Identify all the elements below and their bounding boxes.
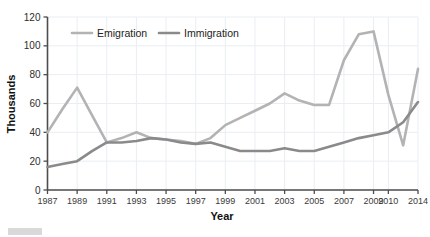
bottom-gray-marker	[8, 228, 42, 235]
x-axis-tick-label: 1991	[97, 196, 117, 206]
x-axis-tick-label: 2010	[378, 196, 398, 206]
x-axis-tick-label: 2005	[304, 196, 324, 206]
y-axis-tick-label: 60	[29, 98, 41, 109]
y-axis-tick-label: 40	[29, 127, 41, 138]
x-axis-tick-label: 1995	[156, 196, 176, 206]
x-axis-tick-label: 1987	[37, 196, 57, 206]
y-axis-title: Thousands	[5, 75, 17, 134]
legend-label-immigration: Immigration	[184, 27, 239, 39]
y-axis-tick-label: 100	[24, 40, 41, 51]
y-axis-tick-label: 120	[24, 12, 41, 23]
x-axis-title: Year	[210, 210, 234, 222]
x-axis-tick-label: 1997	[186, 196, 206, 206]
y-axis-tick-label: 20	[29, 156, 41, 167]
line-chart: 020406080100120 198719891991199319951997…	[0, 0, 430, 237]
bottom-whitespace-band	[0, 222, 430, 237]
x-axis-tick-label: 1993	[126, 196, 146, 206]
legend-label-emigration: Emigration	[97, 27, 147, 39]
x-axis-tick-label: 2001	[245, 196, 265, 206]
y-axis-tick-label: 80	[29, 69, 41, 80]
y-axis-tick-label: 0	[35, 185, 41, 196]
x-axis-tick-label: 1999	[215, 196, 235, 206]
x-axis-tick-label: 2003	[275, 196, 295, 206]
x-axis-tick-label: 1989	[67, 196, 87, 206]
x-axis-tick-label: 2007	[334, 196, 354, 206]
chart-figure: 020406080100120 198719891991199319951997…	[0, 0, 430, 237]
x-axis-tick-label: 2014	[408, 196, 428, 206]
